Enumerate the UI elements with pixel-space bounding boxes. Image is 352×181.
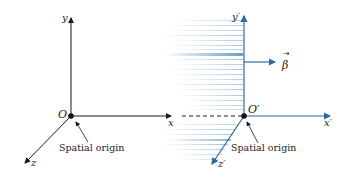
origin-caption: Spatial origin bbox=[59, 142, 124, 153]
y-axis-label: y bbox=[62, 12, 68, 23]
vector-arrow-icon: → bbox=[283, 49, 290, 58]
origin-prime-caption: Spatial origin bbox=[231, 142, 296, 153]
x-axis-label: x bbox=[168, 117, 174, 128]
z-prime-axis-label: z′ bbox=[218, 158, 226, 169]
origin-label: O bbox=[58, 108, 67, 121]
velocity-label: → β bbox=[282, 54, 288, 73]
origin-prime-label: O′ bbox=[248, 103, 260, 116]
x-prime-axis-label: x′ bbox=[324, 117, 332, 128]
z-axis-label: z bbox=[31, 157, 36, 168]
y-prime-axis-label: y′ bbox=[232, 11, 240, 22]
